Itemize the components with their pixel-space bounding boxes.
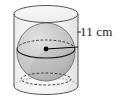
- cylinder-top: [14, 6, 78, 23]
- radius-dimension-label: 11 cm: [80, 24, 113, 39]
- geometry-figure: 11 cm: [0, 0, 126, 97]
- center-point: [44, 47, 49, 52]
- solid-figure-svg: [0, 0, 126, 97]
